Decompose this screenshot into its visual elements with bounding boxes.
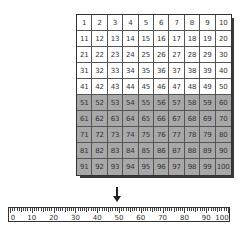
grid-cell-9: 9 [200,15,215,31]
grid-cell-61: 61 [77,111,92,127]
number-line-label-60: 60 [136,214,145,222]
tick-mark [180,208,181,211]
grid-cell-19: 19 [200,31,215,47]
down-arrow-head-icon [113,196,121,202]
tick-mark [136,208,137,211]
tick-mark [17,208,18,211]
grid-cell-81: 81 [77,143,92,159]
grid-cell-29: 29 [200,47,215,63]
tick-mark [117,208,118,211]
number-line-label-0: 0 [11,214,15,222]
grid-cell-2: 2 [92,15,107,31]
tick-mark [108,208,109,212]
tick-mark [86,208,87,212]
grid-cell-14: 14 [123,31,138,47]
grid-cell-27: 27 [169,47,184,63]
number-line-label-10: 10 [27,214,36,222]
tick-mark [169,208,170,211]
grid-cell-57: 57 [169,95,184,111]
grid-cell-3: 3 [108,15,123,31]
grid-cell-23: 23 [108,47,123,63]
grid-cell-88: 88 [185,143,200,159]
tick-mark [49,208,50,211]
tick-mark [91,208,92,211]
grid-cell-99: 99 [200,159,215,175]
grid-cell-64: 64 [123,111,138,127]
tick-mark [182,208,183,211]
grid-cell-5: 5 [139,15,154,31]
grid-cell-94: 94 [123,159,138,175]
tick-mark [62,208,63,211]
grid-cell-87: 87 [169,143,184,159]
tick-mark [141,208,142,213]
number-line-label-50: 50 [115,214,124,222]
tick-mark [215,208,216,211]
grid-cell-91: 91 [77,159,92,175]
grid-cell-70: 70 [216,111,231,127]
tick-mark [115,208,116,211]
tick-mark [82,208,83,211]
tick-mark [176,208,177,211]
tick-mark [187,208,188,211]
tick-mark [143,208,144,211]
grid-cell-43: 43 [108,79,123,95]
tick-mark [32,208,33,213]
grid-cell-37: 37 [169,63,184,79]
tick-mark [204,208,205,211]
grid-cell-31: 31 [77,63,92,79]
tick-mark [213,208,214,211]
tick-mark [165,208,166,211]
grid-cell-13: 13 [108,31,123,47]
tick-mark [171,208,172,211]
grid-cell-98: 98 [185,159,200,175]
grid-cell-89: 89 [200,143,215,159]
hundreds-grid: 1234567891011121314151617181920212223242… [76,14,232,176]
grid-cell-85: 85 [139,143,154,159]
tick-mark [14,208,15,211]
grid-cell-40: 40 [216,63,231,79]
grid-cell-38: 38 [185,63,200,79]
grid-cell-26: 26 [154,47,169,63]
tick-mark [130,208,131,212]
grid-cell-95: 95 [139,159,154,175]
tick-mark [217,208,218,212]
grid-cell-55: 55 [139,95,154,111]
grid-cell-59: 59 [200,95,215,111]
tick-mark [197,208,198,211]
grid-cell-22: 22 [92,47,107,63]
tick-mark [112,208,113,211]
number-line-label-100: 100 [215,214,228,222]
tick-mark [145,208,146,211]
tick-mark [21,208,22,212]
grid-cell-67: 67 [169,111,184,127]
tick-mark [126,208,127,211]
tick-mark [121,208,122,211]
grid-cell-4: 4 [123,15,138,31]
tick-mark [65,208,66,212]
grid-cell-77: 77 [169,127,184,143]
number-line-label-80: 80 [180,214,189,222]
tick-mark [93,208,94,211]
grid-cell-74: 74 [123,127,138,143]
grid-cell-80: 80 [216,127,231,143]
grid-cell-66: 66 [154,111,169,127]
tick-mark [69,208,70,211]
grid-cell-63: 63 [108,111,123,127]
tick-mark [45,208,46,211]
tick-mark [19,208,20,211]
grid-cell-20: 20 [216,31,231,47]
grid-cell-52: 52 [92,95,107,111]
grid-cell-33: 33 [108,63,123,79]
tick-mark [202,208,203,211]
tick-mark [106,208,107,211]
tick-mark [147,208,148,211]
tick-mark [71,208,72,211]
grid-cell-16: 16 [154,31,169,47]
tick-mark [110,208,111,211]
grid-cell-15: 15 [139,31,154,47]
grid-cell-100: 100 [216,159,231,175]
number-line-label-30: 30 [71,214,80,222]
tick-mark [211,208,212,211]
tick-mark [174,208,175,212]
tick-mark [123,208,124,211]
